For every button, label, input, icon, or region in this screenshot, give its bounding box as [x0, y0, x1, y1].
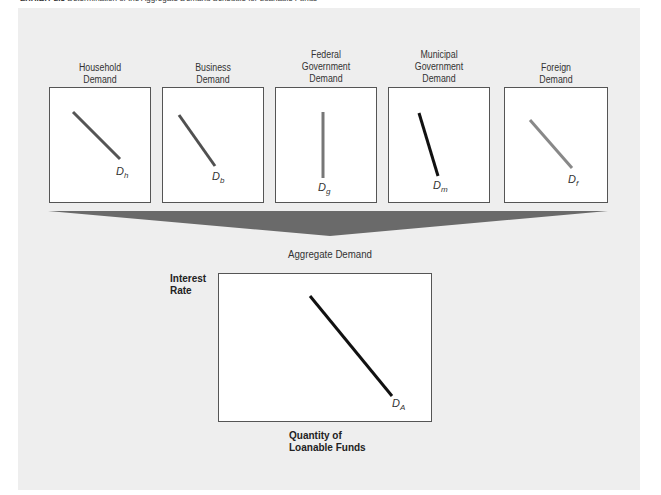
label-dh: Dh: [116, 165, 129, 180]
label-dm: Dm: [433, 179, 448, 194]
business-demand-curve: [179, 115, 215, 166]
label-db: Db: [212, 170, 225, 185]
label-df: Df: [568, 173, 579, 188]
aggregate-demand-label: Aggregate Demand: [242, 248, 418, 260]
aggregate-demand-curve: [310, 296, 392, 396]
aggregation-arrow: [48, 211, 608, 236]
y-axis-label: InterestRate: [170, 273, 206, 297]
household-demand-curve: [73, 112, 120, 159]
label-da: DA: [392, 397, 405, 412]
municipal-demand-curve: [419, 113, 438, 176]
foreign-demand-curve: [530, 120, 572, 168]
label-dg: Dg: [318, 181, 331, 196]
x-axis-label: Quantity ofLoanable Funds: [289, 430, 366, 454]
